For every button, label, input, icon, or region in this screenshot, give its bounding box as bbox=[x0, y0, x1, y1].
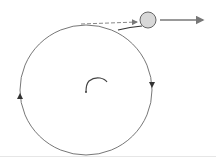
broken-string-ball bbox=[118, 26, 142, 30]
bottom-divider bbox=[0, 156, 216, 157]
ball bbox=[140, 12, 156, 28]
pivot-point bbox=[85, 91, 87, 93]
clockwise-arrow-left-icon bbox=[17, 93, 23, 99]
broken-string-center bbox=[86, 78, 107, 92]
clockwise-arrow-right-icon bbox=[149, 82, 155, 88]
circular-motion-diagram bbox=[0, 0, 216, 159]
dashed-tangent-arrow bbox=[81, 22, 137, 24]
